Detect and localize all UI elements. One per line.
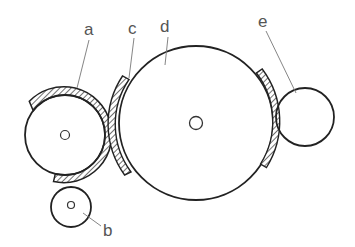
roller-b-axle-icon — [68, 202, 75, 209]
leader-c — [129, 38, 134, 78]
label-d: d — [160, 17, 169, 36]
roller-e-body — [276, 88, 334, 146]
roller-b — [51, 187, 91, 227]
label-e: e — [258, 12, 267, 31]
label-b: b — [103, 221, 112, 240]
roller-e — [276, 88, 334, 146]
roller-a-body — [25, 95, 105, 175]
label-c: c — [128, 19, 137, 38]
roller-d-body — [119, 46, 273, 200]
roller-d-axle-icon — [190, 117, 203, 130]
roller-b-body — [51, 187, 91, 227]
roller-a-axle-icon — [61, 131, 70, 140]
roller-diagram: a c d e b — [0, 0, 355, 247]
leader-a — [77, 40, 89, 88]
roller-a — [25, 87, 112, 183]
label-a: a — [84, 20, 94, 39]
roller-d — [108, 46, 280, 200]
